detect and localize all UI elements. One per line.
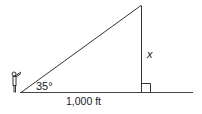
triangle-diagram: 35° 1,000 ft x [0, 0, 202, 114]
observer-figure-icon [12, 72, 21, 93]
height-label: x [146, 48, 153, 60]
right-angle-marker [142, 84, 151, 93]
base-label: 1,000 ft [66, 95, 101, 107]
angle-label: 35° [36, 80, 53, 92]
